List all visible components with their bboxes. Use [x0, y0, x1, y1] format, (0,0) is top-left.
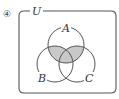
problem-number: ④: [3, 9, 11, 19]
venn-diagram: ④ U A B C: [0, 0, 119, 99]
set-b-label: B: [37, 72, 46, 85]
set-a-label: A: [61, 22, 70, 35]
universal-set-label: U: [32, 5, 42, 18]
set-c-label: C: [85, 72, 94, 85]
